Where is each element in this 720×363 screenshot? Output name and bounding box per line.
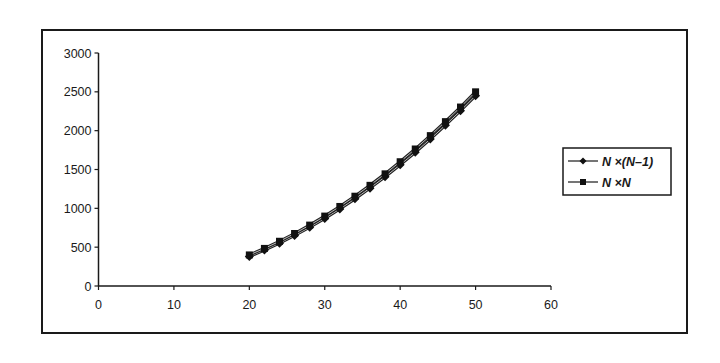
series-line-highlight <box>249 96 475 257</box>
axes: 0500100015002000250030000102030405060 <box>64 47 558 313</box>
y-tick-label: 1000 <box>64 202 92 216</box>
x-tick-label: 20 <box>242 298 256 312</box>
y-tick-label: 3000 <box>64 47 92 61</box>
data-point <box>321 213 328 220</box>
x-tick-label: 10 <box>167 298 181 312</box>
legend: N ×(N–1) N ×N <box>563 148 671 195</box>
data-point <box>351 193 358 200</box>
x-tick-label: 40 <box>393 298 407 312</box>
data-point <box>306 222 313 229</box>
series-n-times-n <box>246 88 479 258</box>
data-point <box>291 230 298 237</box>
series-n-times-n-minus-1 <box>245 91 480 261</box>
data-point <box>276 238 283 245</box>
x-tick-label: 60 <box>544 298 558 312</box>
data-point <box>261 245 268 252</box>
data-point <box>397 158 404 165</box>
line-chart: 0500100015002000250030000102030405060 N … <box>0 0 720 363</box>
data-point <box>442 118 449 125</box>
data-point <box>472 88 479 95</box>
legend-label: N ×(N–1) <box>602 155 653 169</box>
data-point <box>427 132 434 139</box>
y-tick-label: 500 <box>71 241 92 255</box>
x-tick-label: 50 <box>469 298 483 312</box>
data-point <box>336 203 343 210</box>
series-line <box>249 92 475 255</box>
series-line-highlight <box>249 92 475 255</box>
data-point <box>367 182 374 189</box>
series-group <box>245 88 480 261</box>
series-line <box>249 96 475 257</box>
y-tick-label: 2500 <box>64 85 92 99</box>
y-tick-label: 0 <box>85 280 92 294</box>
data-point <box>457 104 464 111</box>
legend-label: N ×N <box>602 176 632 190</box>
square-marker-icon <box>580 179 586 185</box>
x-tick-label: 30 <box>318 298 332 312</box>
data-point <box>382 170 389 177</box>
y-tick-label: 2000 <box>64 124 92 138</box>
y-tick-label: 1500 <box>64 163 92 177</box>
data-point <box>412 145 419 152</box>
x-tick-label: 0 <box>95 298 102 312</box>
data-point <box>246 251 253 258</box>
